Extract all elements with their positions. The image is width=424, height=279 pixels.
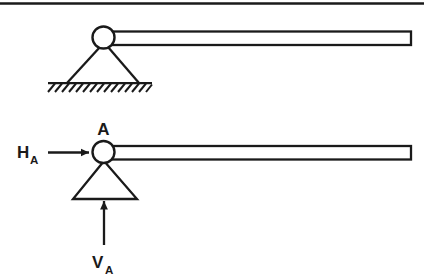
vertical-reaction-label: V A bbox=[92, 253, 113, 276]
horizontal-reaction-symbol: H bbox=[17, 143, 29, 162]
hatched-ground-top bbox=[48, 84, 152, 93]
joint-label-a: A bbox=[97, 120, 109, 139]
vertical-reaction-subscript: A bbox=[105, 264, 113, 276]
vertical-reaction-symbol: V bbox=[92, 253, 104, 272]
beam-on-pin-support-top bbox=[48, 27, 411, 93]
horizontal-reaction-subscript: A bbox=[30, 154, 38, 166]
beam-with-reactions-bottom: A H A V A bbox=[17, 120, 411, 276]
pin-circle-top bbox=[93, 27, 115, 49]
beam-top bbox=[106, 32, 411, 46]
support-leg-right-top bbox=[108, 47, 139, 83]
statics-diagram-figure: A H A V A bbox=[0, 0, 424, 279]
pin-circle-bottom bbox=[93, 141, 115, 163]
diagram-canvas: A H A V A bbox=[0, 0, 424, 279]
beam-bottom bbox=[106, 146, 411, 160]
triangular-support-bottom bbox=[73, 161, 137, 199]
support-leg-left-top bbox=[67, 47, 100, 83]
horizontal-reaction-label: H A bbox=[17, 143, 38, 166]
